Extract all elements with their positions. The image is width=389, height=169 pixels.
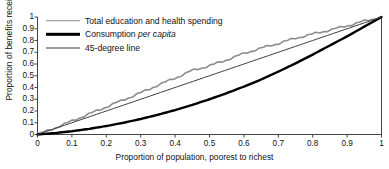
- chart-legend: Total education and health spending Cons…: [46, 14, 223, 55]
- legend-item-spending: Total education and health spending: [46, 14, 223, 28]
- x-tick-label: 0.1: [66, 139, 77, 148]
- legend-label-fortyfive: 45-degree line: [85, 43, 140, 53]
- legend-line-swatch-fortyfive: [46, 43, 80, 53]
- x-tick-label: 0.3: [135, 139, 146, 148]
- legend-label-consumption-plain: Consumption: [85, 29, 138, 39]
- x-tick-label: 0: [35, 139, 40, 148]
- legend-label-spending: Total education and health spending: [85, 16, 223, 26]
- x-tick-label: 0.4: [169, 139, 180, 148]
- x-tick-label: 0.6: [238, 139, 249, 148]
- legend-item-fortyfive: 45-degree line: [46, 41, 223, 55]
- x-axis-title: Proportion of population, poorest to ric…: [0, 152, 389, 162]
- x-axis-tick-labels: 00.10.20.30.40.50.60.70.80.91: [0, 135, 389, 149]
- lorenz-curve-chart: Proportion of benefits received 10.90.80…: [0, 0, 389, 169]
- legend-label-consumption-italic: per capita: [138, 29, 176, 39]
- legend-item-consumption: Consumption per capita: [46, 28, 223, 42]
- legend-label-consumption: Consumption per capita: [85, 29, 176, 39]
- x-tick-label: 0.8: [307, 139, 318, 148]
- x-tick-label: 0.5: [204, 139, 215, 148]
- x-tick-label: 0.7: [273, 139, 284, 148]
- legend-line-swatch-spending: [46, 16, 80, 26]
- legend-line-swatch-consumption: [46, 29, 80, 39]
- x-tick-label: 0.9: [341, 139, 352, 148]
- x-tick-label: 1: [379, 139, 384, 148]
- x-tick-label: 0.2: [101, 139, 112, 148]
